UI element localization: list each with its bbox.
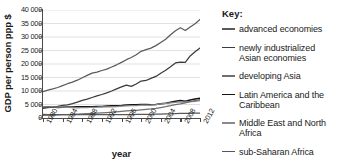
y-tick-mark [39,77,43,78]
legend-item[interactable]: Middle East and North Africa [222,118,338,138]
legend-item[interactable]: newly industrialized Asian economies [222,43,338,63]
legend-line-swatch-icon [222,43,235,53]
y-tick-mark [39,63,43,64]
chart-screenshot: GDP per person ppp $ 05 00010 00015 0002… [0,0,338,160]
y-axis-title-text: GDP per person ppp $ [2,14,13,112]
legend-title: Key: [222,8,243,19]
legend-item-label: advanced economies [239,24,322,34]
legend-item[interactable]: advanced economies [222,24,338,34]
plot-area [43,10,200,118]
line-chart: GDP per person ppp $ 05 00010 00015 0002… [0,0,208,160]
legend-line-swatch-icon [222,147,235,157]
legend-line-swatch-icon [222,71,235,81]
legend-item-label: Middle East and North Africa [239,118,338,138]
legend-line-swatch-icon [222,118,235,128]
x-axis-title: year [43,148,200,159]
legend-line-swatch-icon [222,24,235,34]
series-canvas [43,10,200,118]
legend-item[interactable]: developing Asia [222,71,338,81]
y-tick-mark [39,23,43,24]
legend-item-label: developing Asia [239,71,301,81]
legend-item-label: sub-Saharan Africa [239,147,314,157]
series-line [43,19,200,91]
legend-line-swatch-icon [222,90,235,100]
y-tick-mark [39,104,43,105]
y-axis-tick-labels: 05 00010 00015 00020 00025 00030 00035 0… [12,4,42,120]
legend-item[interactable]: sub-Saharan Africa [222,147,338,157]
y-tick-mark [39,50,43,51]
y-tick-mark [39,9,43,10]
y-tick-mark [39,36,43,37]
legend-item[interactable]: Latin America and the Caribbean [222,90,338,110]
y-tick-mark [39,117,43,118]
legend: Key: advanced economiesnewly industriali… [210,0,338,160]
legend-item-label: Latin America and the Caribbean [239,90,338,110]
legend-item-label: newly industrialized Asian economies [239,43,338,63]
series-line [43,48,200,108]
y-tick-mark [39,90,43,91]
